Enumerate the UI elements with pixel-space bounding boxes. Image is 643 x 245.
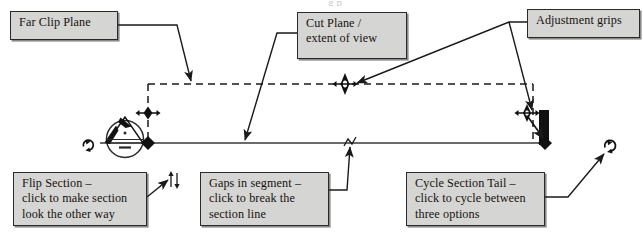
- section-head-bubble[interactable]: [105, 117, 144, 158]
- diagram-canvas: g p: [0, 0, 643, 245]
- grip-head-mid[interactable]: [136, 107, 161, 120]
- grip-top-center[interactable]: [333, 73, 358, 95]
- callout-adjustment-grips[interactable]: Adjustment grips: [527, 9, 640, 38]
- leader-cycle-section-tail: [545, 154, 604, 197]
- rotate-icon-right[interactable]: [605, 140, 616, 153]
- leader-gaps-in-segment: [329, 147, 350, 190]
- section-tail-marker[interactable]: [528, 110, 552, 150]
- leader-flip-section: [147, 180, 168, 197]
- callout-flip-section[interactable]: Flip Section – click to make section loo…: [13, 172, 147, 226]
- gap-break-mark[interactable]: [344, 137, 356, 146]
- callout-far-clip-plane[interactable]: Far Clip Plane: [10, 11, 118, 40]
- leader-cut-plane: [245, 33, 297, 140]
- grip-tail-mid[interactable]: [515, 104, 540, 122]
- leader-far-clip-plane: [118, 25, 191, 81]
- flip-arrows-icon[interactable]: [168, 171, 179, 189]
- far-clip-plane-dashed-rectangle: [148, 84, 533, 143]
- rotate-icon-left[interactable]: [83, 140, 93, 152]
- callout-gaps-in-segment[interactable]: Gaps in segment – click to break the sec…: [200, 172, 329, 226]
- callout-cut-plane[interactable]: Cut Plane / extent of view: [297, 12, 407, 59]
- callout-cycle-section-tail[interactable]: Cycle Section Tail – click to cycle betw…: [406, 172, 545, 226]
